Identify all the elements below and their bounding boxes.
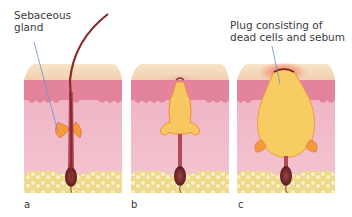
panel-label-c: c: [238, 199, 244, 210]
panel-a: [24, 14, 122, 193]
panel-c: [237, 46, 335, 193]
panel-label-b: b: [131, 199, 137, 210]
panel-b: [131, 64, 229, 193]
panel-label-a: a: [24, 199, 30, 210]
acne-formation-diagram: [0, 0, 352, 217]
